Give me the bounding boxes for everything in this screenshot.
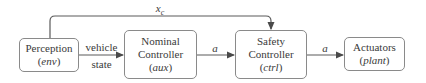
edge-label-a-nominal: a xyxy=(205,42,225,54)
actuators-block: Actuators (plant) xyxy=(344,37,405,71)
safety-controller-block: Safety Controller (ctrl) xyxy=(235,30,307,79)
nominal-controller-block: Nominal Controller (aux) xyxy=(124,30,197,79)
edge-label-vehicle: vehicle xyxy=(80,41,123,53)
perception-title: Perception xyxy=(25,42,72,55)
perception-block: Perception (env) xyxy=(19,38,79,72)
safety-title-line1: Safety xyxy=(257,35,285,48)
safety-var: (ctrl) xyxy=(260,61,283,74)
nominal-title-line2: Controller xyxy=(138,48,183,61)
perception-var: (env) xyxy=(38,55,61,68)
nominal-var: (aux) xyxy=(149,61,172,74)
actuators-title: Actuators xyxy=(353,41,396,54)
nominal-title-line1: Nominal xyxy=(141,35,180,48)
edge-label-xc: xc xyxy=(150,2,170,19)
safety-title-line2: Controller xyxy=(248,48,293,61)
actuators-var: (plant) xyxy=(360,54,390,67)
edge-label-state: state xyxy=(80,58,123,70)
edge-label-a-safety: a xyxy=(315,42,335,54)
